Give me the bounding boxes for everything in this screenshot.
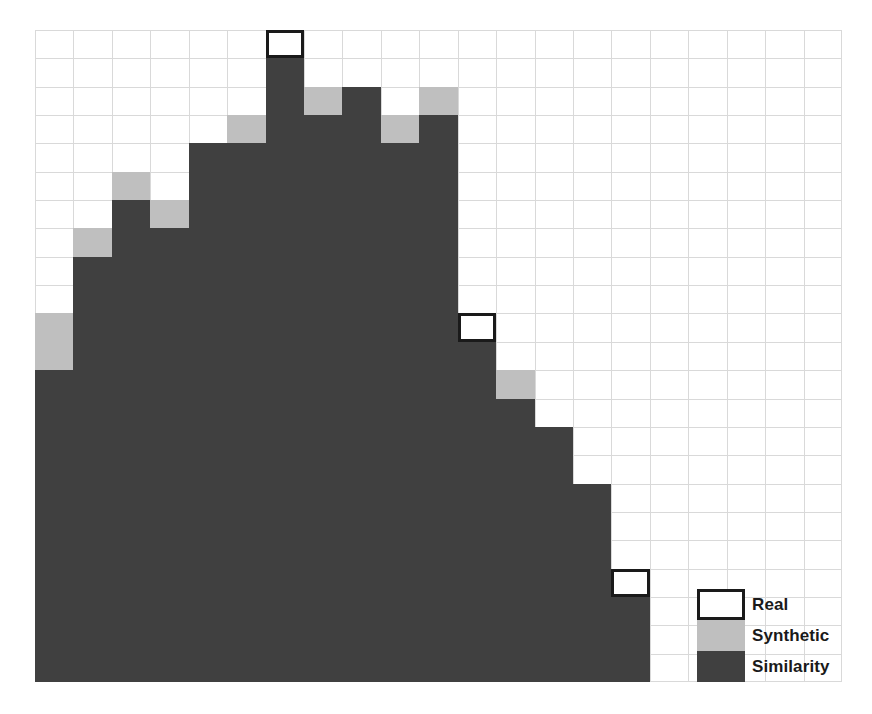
bar-segment-synthetic <box>496 370 534 398</box>
bar-column <box>189 30 227 682</box>
bar-column <box>227 30 265 682</box>
bar-column <box>112 30 150 682</box>
bar-column <box>381 30 419 682</box>
bar-column <box>304 30 342 682</box>
bar-column <box>535 30 573 682</box>
bar-segment-real <box>458 313 496 341</box>
bar-segment-real <box>611 569 649 597</box>
legend-swatch-real-icon <box>697 589 745 620</box>
bar-segment-synthetic <box>112 172 150 200</box>
bar-segment-synthetic <box>419 87 457 115</box>
bar-segment-real <box>266 30 304 58</box>
bar-segment-similarity <box>304 115 342 682</box>
bar-column <box>35 30 73 682</box>
bar-segment-synthetic <box>35 313 73 370</box>
bar-segment-synthetic <box>304 87 342 115</box>
bar-segment-similarity <box>419 115 457 682</box>
bar-segment-similarity <box>573 484 611 682</box>
bar-segment-similarity <box>189 143 227 682</box>
bar-segment-similarity <box>535 427 573 682</box>
bar-column <box>496 30 534 682</box>
chart-legend: Real Synthetic Similarity <box>697 589 857 682</box>
bar-column <box>458 30 496 682</box>
bar-column <box>150 30 188 682</box>
bar-column <box>419 30 457 682</box>
bar-segment-similarity <box>611 597 649 682</box>
legend-label-similarity: Similarity <box>752 658 830 675</box>
bar-segment-similarity <box>381 143 419 682</box>
bar-column <box>342 30 380 682</box>
bar-column <box>573 30 611 682</box>
legend-swatch-synthetic-icon <box>697 620 745 651</box>
bar-segment-similarity <box>496 399 534 683</box>
bar-column <box>611 30 649 682</box>
bar-series-container <box>35 30 842 682</box>
plot-area <box>35 30 842 682</box>
legend-item-real: Real <box>697 589 857 620</box>
bar-segment-synthetic <box>73 228 111 256</box>
legend-swatch-similarity-icon <box>697 651 745 682</box>
bar-segment-similarity <box>458 342 496 682</box>
bar-column <box>73 30 111 682</box>
bar-segment-similarity <box>266 58 304 682</box>
legend-label-real: Real <box>752 596 788 613</box>
legend-item-synthetic: Synthetic <box>697 620 857 651</box>
chart-figure: Real Synthetic Similarity <box>0 0 872 714</box>
bar-segment-similarity <box>150 228 188 682</box>
bar-segment-similarity <box>342 87 380 682</box>
bar-segment-similarity <box>227 143 265 682</box>
bar-segment-synthetic <box>227 115 265 143</box>
bar-segment-synthetic <box>150 200 188 228</box>
legend-label-synthetic: Synthetic <box>752 627 829 644</box>
bar-column <box>266 30 304 682</box>
bar-segment-similarity <box>35 370 73 682</box>
bar-segment-synthetic <box>381 115 419 143</box>
bar-segment-similarity <box>73 257 111 682</box>
bar-segment-similarity <box>112 200 150 682</box>
legend-item-similarity: Similarity <box>697 651 857 682</box>
